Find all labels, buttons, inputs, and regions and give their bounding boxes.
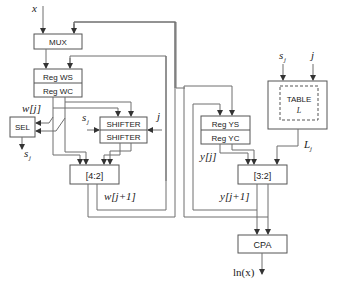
reg-ws-label: Reg WS — [43, 73, 73, 82]
wc-to-shifter-wire — [65, 102, 131, 116]
shifter-j-label: j — [155, 110, 160, 122]
yc-to-csa32-wire — [232, 144, 254, 164]
sel-block: SEL — [10, 117, 35, 137]
shifter-s-j-sub: j — [86, 118, 89, 126]
shifter-block: SHIFTER SHIFTER — [100, 117, 147, 143]
cpa-label: CPA — [254, 240, 272, 250]
y-j1-label: y[j+1] — [219, 190, 249, 202]
sel-out-s-label: s — [24, 147, 28, 159]
sel-out-j-sub: j — [28, 154, 31, 162]
ws-to-csa42-wire — [53, 152, 80, 164]
mux-block: MUX — [34, 34, 82, 49]
csa32-block: [3:2] — [238, 165, 287, 184]
mux-label: MUX — [49, 38, 67, 47]
csa32-label: [3:2] — [254, 171, 272, 181]
reg-y-block: Reg YS Reg YC — [201, 116, 250, 144]
shifter-top-label: SHIFTER — [106, 120, 140, 129]
table-s-j-sub: j — [283, 56, 286, 64]
logarithm-datapath-diagram: x MUX Reg WS Reg WC w[j] SEL s j s j — [0, 0, 339, 290]
cpa-block: CPA — [238, 235, 287, 253]
wc-to-csa42-wire — [65, 152, 86, 164]
csa42-label: [4:2] — [86, 171, 104, 181]
reg-ys-label: Reg YS — [212, 120, 239, 129]
reg-w-block: Reg WS Reg WC — [34, 69, 82, 97]
table-out-wire — [277, 129, 298, 164]
mux-feedback-wire — [74, 22, 185, 88]
shifter-s-label: s — [82, 111, 86, 123]
w-j1-label: w[j+1] — [104, 190, 136, 202]
shifter-bottom-label: SHIFTER — [106, 133, 140, 142]
reg-wc-label: Reg WC — [43, 87, 73, 96]
table-block: TABLE L — [268, 81, 327, 129]
ln-x-output-label: ln(x) — [233, 266, 255, 279]
sel-label: SEL — [15, 123, 31, 132]
w-j-label: w[j] — [22, 102, 41, 114]
mux-feedback-wire-a — [74, 22, 175, 88]
x-input-label: x — [31, 2, 37, 14]
table-title-label: TABLE — [287, 95, 312, 104]
y-j-label: y[j] — [199, 150, 217, 162]
reg-yc-label: Reg YC — [212, 134, 240, 143]
ys-to-csa32-wire — [220, 144, 248, 164]
ws-to-sel-wire — [36, 117, 53, 123]
table-j-label: j — [309, 49, 314, 61]
l-j-sub: j — [309, 145, 312, 153]
shifter-a-to-csa42-wire — [104, 143, 120, 164]
table-sub-label: L — [296, 106, 302, 115]
csa42-block: [4:2] — [70, 165, 119, 184]
table-s-label: s — [279, 49, 283, 61]
